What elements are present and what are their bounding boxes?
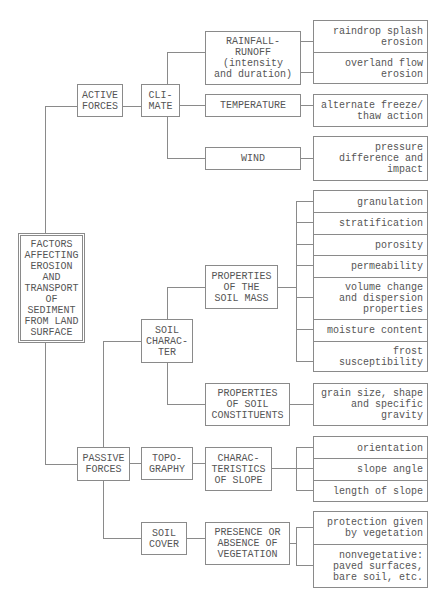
wind-box: WIND	[205, 147, 301, 170]
grain-size-box: grain size, shape and specific gravity	[313, 383, 428, 426]
list-item: nonvegetative: paved surfaces, bare soil…	[314, 544, 427, 588]
freeze-thaw-box: alternate freeze/ thaw action	[313, 94, 428, 127]
connector	[296, 201, 297, 361]
pressure-impact-box: pressure difference and impact	[313, 136, 428, 181]
connector	[296, 201, 313, 202]
connector	[296, 490, 313, 491]
connector	[45, 106, 77, 107]
connector	[103, 480, 104, 538]
list-item: porosity	[314, 234, 427, 256]
connector	[301, 72, 313, 73]
list-item: stratification	[314, 212, 427, 234]
soil-cover-box: SOIL COVER	[141, 522, 187, 555]
slope-characteristics-box: CHARAC- TERISTICS OF SLOPE	[205, 447, 272, 491]
connector	[187, 538, 205, 539]
connector	[103, 341, 141, 342]
list-item: overland flow erosion	[314, 52, 427, 84]
soil-constituents-box: PROPERTIES OF SOIL CONSTITUENTS	[205, 383, 290, 426]
rainfall-runoff-box: RAINFALL- RUNOFF (intensity and duration…	[205, 31, 301, 85]
connector	[103, 538, 141, 539]
connector	[122, 106, 141, 107]
rainfall-effects-list: raindrop splash erosion overland flow er…	[313, 20, 428, 84]
soil-mass-properties-list: granulation stratification porosity perm…	[313, 190, 428, 372]
connector	[167, 287, 168, 319]
connector	[167, 362, 168, 404]
topography-box: TOPO- GRAPHY	[141, 447, 193, 480]
list-item: raindrop splash erosion	[314, 21, 427, 53]
connector	[167, 404, 205, 405]
vegetation-box: PRESENCE OR ABSENCE OF VEGETATION	[205, 522, 290, 565]
slope-list: orientation slope angle length of slope	[313, 436, 428, 502]
climate-box: CLI- MATE	[141, 84, 180, 117]
connector	[296, 265, 313, 266]
connector	[301, 105, 313, 106]
list-item: permeability	[314, 255, 427, 277]
list-item: protection given by vegetation	[314, 512, 427, 544]
temperature-box: TEMPERATURE	[205, 94, 301, 117]
list-item: volume change and dispersion properties	[314, 277, 427, 319]
connector	[167, 287, 205, 288]
connector	[296, 244, 313, 245]
connector	[301, 41, 313, 42]
list-item: slope angle	[314, 458, 427, 480]
connector	[289, 404, 313, 405]
connector	[272, 468, 296, 469]
soil-character-box: SOIL CHARAC- TER	[141, 319, 193, 363]
connector	[296, 361, 313, 362]
list-item: orientation	[314, 437, 427, 459]
connector	[301, 158, 313, 159]
connector	[277, 287, 296, 288]
connector	[296, 527, 297, 565]
connector	[193, 463, 205, 464]
active-forces-box: ACTIVE FORCES	[77, 84, 123, 117]
connector	[296, 565, 313, 566]
connector	[180, 105, 205, 106]
passive-forces-box: PASSIVE FORCES	[77, 447, 130, 481]
connector	[296, 447, 313, 448]
list-item: moisture content	[314, 319, 427, 341]
vegetation-list: protection given by vegetation nonvegeta…	[313, 511, 428, 588]
connector	[296, 468, 313, 469]
soil-mass-box: PROPERTIES OF THE SOIL MASS	[205, 265, 278, 309]
connector	[289, 543, 296, 544]
list-item: granulation	[314, 191, 427, 213]
connector	[296, 527, 313, 528]
root-factors-box: FACTORS AFFECTING EROSION AND TRANSPORT …	[18, 233, 85, 343]
connector	[296, 329, 313, 330]
list-item: frost susceptibility	[314, 341, 427, 372]
connector	[296, 297, 313, 298]
connector	[45, 464, 77, 465]
connector	[167, 158, 205, 159]
connector	[296, 222, 313, 223]
connector	[167, 52, 205, 53]
connector	[103, 341, 104, 447]
list-item: length of slope	[314, 480, 427, 502]
connector	[129, 463, 141, 464]
